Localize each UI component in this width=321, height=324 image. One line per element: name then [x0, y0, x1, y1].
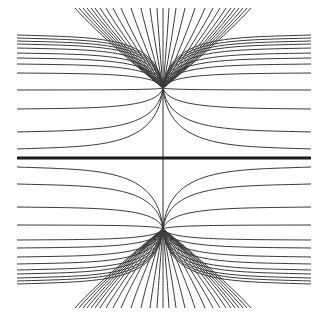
side-curve-upper-right [163, 88, 311, 90]
side-curve-lower-left [17, 184, 163, 229]
side-curve-upper-left [17, 88, 163, 109]
side-curve-lower-right [163, 229, 311, 240]
side-curve-lower-left [17, 229, 163, 248]
curve-family-diagram [0, 0, 321, 324]
side-curve-upper-left [17, 88, 163, 132]
diagram-canvas [0, 0, 321, 324]
side-curve-upper-left [17, 88, 163, 90]
side-curve-upper-right [163, 88, 311, 109]
side-curve-upper-right [163, 73, 311, 88]
side-curve-upper-left [17, 88, 163, 149]
side-curve-upper-left [17, 35, 163, 88]
side-curve-lower-right [163, 225, 311, 229]
side-curve-lower-right [163, 229, 311, 248]
side-curve-lower-right [163, 184, 311, 229]
side-curve-upper-right [163, 38, 311, 88]
side-curve-upper-left [17, 73, 163, 88]
side-curve-upper-right [163, 88, 311, 132]
side-curve-lower-left [17, 225, 163, 229]
side-curve-lower-left [17, 229, 163, 240]
